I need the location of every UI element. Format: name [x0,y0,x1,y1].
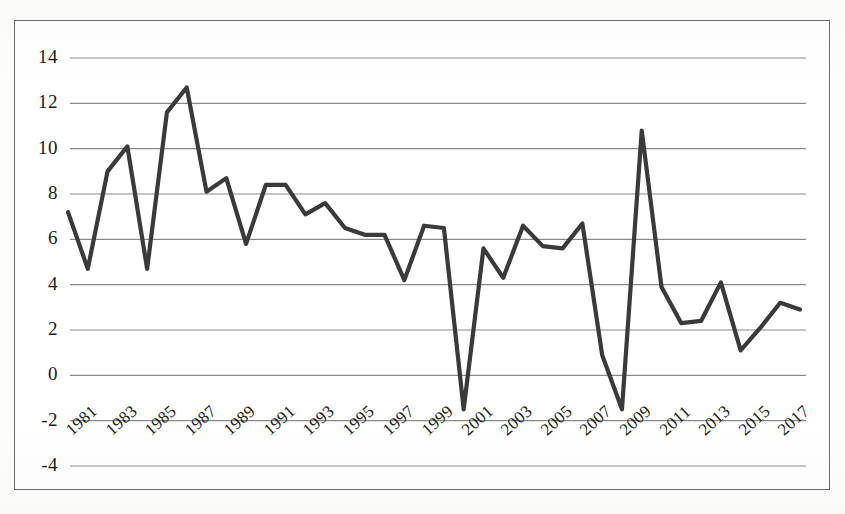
y-tick-label-0: 0 [14,363,58,385]
data-series-line [68,87,800,409]
y-tick-label-14: 14 [14,46,58,68]
y-tick-label-6: 6 [14,227,58,249]
y-tick-label-4: 4 [14,273,58,295]
y-tick-label--2: -2 [14,409,58,431]
line-chart-plot [0,0,845,514]
chart-page: 14121086420-2-4 198119831985198719891991… [0,0,845,514]
y-tick-label-2: 2 [14,318,58,340]
y-tick-label-8: 8 [14,182,58,204]
gridlines-group [70,58,806,466]
y-tick-label-12: 12 [14,91,58,113]
y-tick-label-10: 10 [14,137,58,159]
y-tick-label--4: -4 [14,454,58,476]
